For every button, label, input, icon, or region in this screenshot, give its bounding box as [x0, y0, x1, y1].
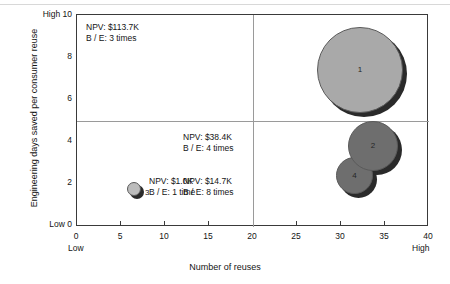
- x-tick-mark-10: [164, 221, 165, 226]
- y-tick-label-2: 2: [16, 177, 72, 187]
- callout-bubble-1: NPV: $113.7K B / E: 3 times: [86, 22, 139, 44]
- scan-artifact-line: [0, 4, 450, 5]
- x-tick-label-20: 20: [232, 231, 272, 241]
- y-axis-title: Engineering days saved per consumer reus…: [29, 8, 39, 228]
- x-tick-mark-25: [296, 221, 297, 226]
- bubble-2-label: 2: [371, 142, 375, 150]
- y-axis-top-label: High 10: [16, 9, 72, 19]
- callout-bubble-1-be: B / E: 3 times: [86, 33, 139, 44]
- x-tick-label-10: 10: [144, 231, 184, 241]
- x-axis-title: Number of reuses: [0, 262, 450, 272]
- callout-bubble-2-be: B / E: 4 times: [183, 143, 234, 154]
- x-axis-high-label: High: [412, 243, 429, 253]
- callout-bubble-2-npv: NPV: $38.4K: [183, 132, 234, 143]
- y-tick-label-8: 8: [16, 51, 72, 61]
- x-tick-label-25: 25: [276, 231, 316, 241]
- bubble-4-label: 4: [352, 172, 356, 180]
- bubble-1[interactable]: 1: [317, 27, 403, 113]
- bubble-3[interactable]: [127, 182, 141, 196]
- bubble-3-disc: [127, 182, 141, 196]
- x-tick-label-15: 15: [188, 231, 228, 241]
- plot-area: NPV: $113.7K B / E: 3 times NPV: $38.4K …: [76, 14, 428, 226]
- x-axis-low-label: Low: [68, 243, 84, 253]
- x-tick-mark-30: [340, 221, 341, 226]
- y-axis-origin-label: Low 0: [16, 219, 72, 229]
- bubble-2-disc: 2: [348, 121, 398, 171]
- bubble-1-label: 1: [358, 66, 362, 74]
- bubble-chart: Engineering days saved per consumer reus…: [0, 0, 450, 284]
- x-tick-mark-35: [384, 221, 385, 226]
- x-tick-label-5: 5: [100, 231, 140, 241]
- callout-bubble-1-npv: NPV: $113.7K: [86, 22, 139, 33]
- x-tick-label-0: 0: [56, 231, 96, 241]
- bubble-1-disc: 1: [317, 27, 403, 113]
- x-tick-label-30: 30: [320, 231, 360, 241]
- bubble-3-label: 3: [145, 189, 149, 197]
- y-tick-label-6: 6: [16, 93, 72, 103]
- x-tick-label-35: 35: [364, 231, 404, 241]
- bubble-2[interactable]: 2: [348, 121, 398, 171]
- x-tick-label-40: 40: [408, 231, 448, 241]
- y-tick-label-4: 4: [16, 135, 72, 145]
- callout-bubble-3: NPV: $1.0K B / E: 1 time: [149, 176, 195, 198]
- x-tick-mark-15: [208, 221, 209, 226]
- x-tick-mark-5: [120, 221, 121, 226]
- callout-bubble-3-be: B / E: 1 time: [149, 187, 195, 198]
- callout-bubble-2: NPV: $38.4K B / E: 4 times: [183, 132, 234, 154]
- callout-bubble-3-npv: NPV: $1.0K: [149, 176, 195, 187]
